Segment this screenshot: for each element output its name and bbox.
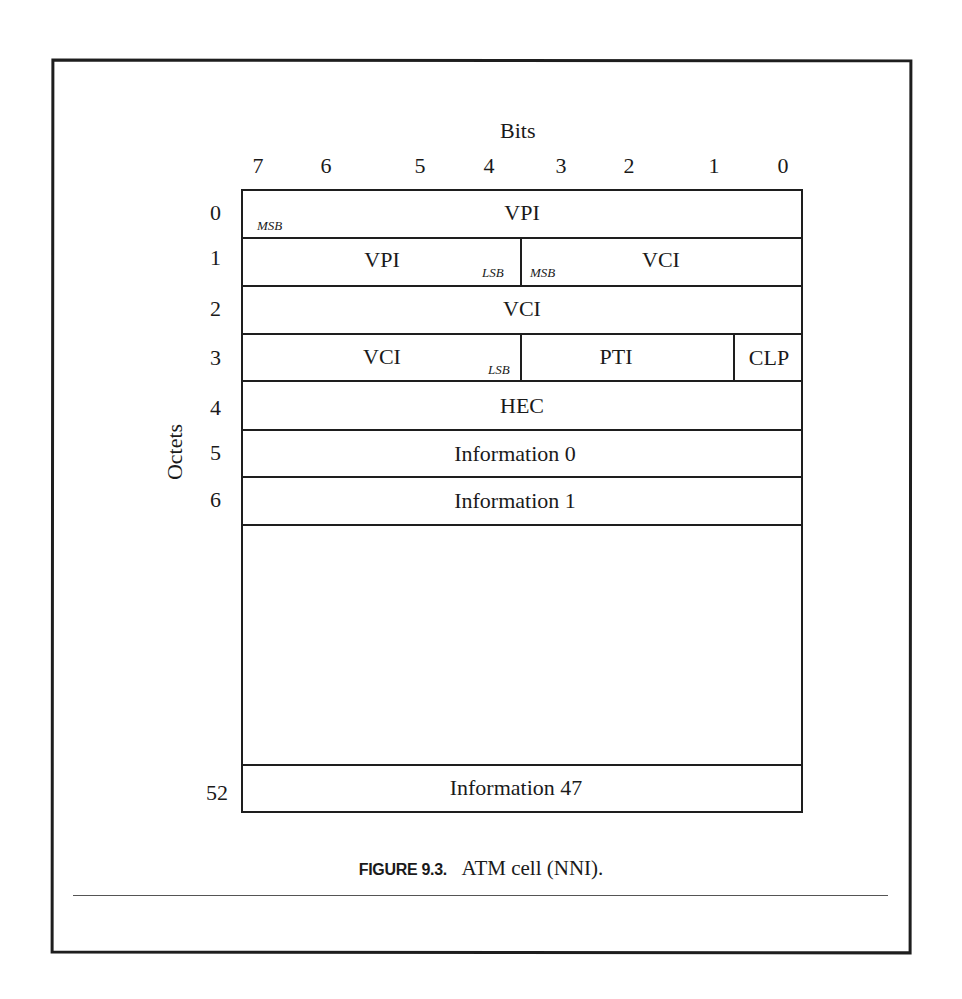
- octet-label-0: 0: [181, 200, 221, 226]
- row-divider: [241, 333, 803, 335]
- octet-label-4: 4: [181, 395, 221, 421]
- figure-caption-text: ATM cell (NNI).: [462, 856, 604, 880]
- caption-rule: [73, 895, 888, 896]
- bit-label-3: 3: [556, 153, 567, 179]
- field-vpi-low: VPI: [364, 247, 399, 273]
- omitted-octets-gap: [243, 526, 801, 763]
- field-divider-pti-clp: [733, 333, 735, 381]
- bit-label-1: 1: [709, 153, 720, 179]
- msb-note: MSB: [257, 218, 282, 234]
- field-hec: HEC: [500, 393, 544, 419]
- field-vci-mid: VCI: [503, 296, 541, 322]
- field-divider-vci-pti: [520, 333, 522, 381]
- msb-note: MSB: [530, 265, 555, 281]
- field-pti: PTI: [600, 344, 633, 370]
- bit-label-4: 4: [484, 153, 495, 179]
- row-divider: [241, 237, 803, 239]
- bit-label-2: 2: [624, 153, 635, 179]
- bit-label-5: 5: [415, 153, 426, 179]
- octet-label-6: 6: [181, 487, 221, 513]
- row-divider: [241, 380, 803, 382]
- field-divider-vpi-vci: [520, 237, 522, 285]
- octet-label-3: 3: [181, 345, 221, 371]
- row-divider: [241, 429, 803, 431]
- field-information-1: Information 1: [454, 488, 576, 514]
- field-information-47: Information 47: [450, 775, 583, 801]
- row-divider: [241, 476, 803, 478]
- figure-number: FIGURE 9.3.: [359, 861, 447, 878]
- figure-caption: FIGURE 9.3. ATM cell (NNI).: [0, 856, 962, 881]
- octet-label-5: 5: [181, 440, 221, 466]
- row-divider: [241, 764, 803, 766]
- field-clp: CLP: [749, 345, 789, 371]
- field-vci-low: VCI: [363, 344, 401, 370]
- bit-label-6: 6: [321, 153, 332, 179]
- bits-axis-title: Bits: [500, 118, 535, 144]
- field-information-0: Information 0: [454, 441, 576, 467]
- octet-label-2: 2: [181, 296, 221, 322]
- lsb-note: LSB: [482, 265, 504, 281]
- lsb-note: LSB: [488, 362, 510, 378]
- field-vci-high: VCI: [642, 247, 680, 273]
- octet-label-52: 52: [188, 780, 228, 806]
- octet-label-1: 1: [181, 245, 221, 271]
- row-divider: [241, 285, 803, 287]
- bit-label-7: 7: [253, 153, 264, 179]
- field-vpi-high: VPI: [504, 200, 539, 226]
- bit-label-0: 0: [778, 153, 789, 179]
